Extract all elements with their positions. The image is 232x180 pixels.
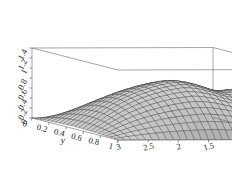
figure-container: 00.20.40.60.811.21.400.20.40.60.8132.521…	[0, 0, 232, 180]
surface-plot-3d: 00.20.40.60.811.21.400.20.40.60.8132.521…	[0, 0, 232, 180]
x-axis-label: x	[231, 143, 232, 153]
y-axis-label: y	[60, 135, 65, 145]
